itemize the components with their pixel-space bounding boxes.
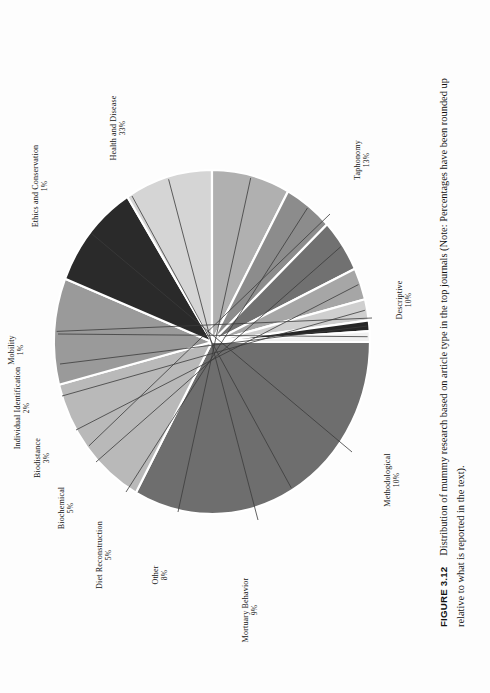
- pie-slice-label: Taphonomy13%: [353, 140, 372, 180]
- pie-slice-label-value: 2%: [22, 367, 31, 450]
- pie-slice-label-value: 10%: [404, 281, 413, 320]
- pie-slice-label-value: 3%: [42, 438, 51, 478]
- figure-caption-block: FIGURE 3.12Distribution of mummy researc…: [418, 0, 488, 693]
- pie-slice-label-name: Descriptive: [395, 281, 404, 320]
- pie-slice-label-value: 5%: [66, 487, 75, 530]
- pie-slice-label: Ethics and Conservation1%: [31, 145, 50, 228]
- pie-slice-label-name: Taphonomy: [353, 140, 362, 180]
- pie-slice-label-name: Diet Reconstruction: [95, 521, 104, 589]
- pie-slice-label: Biodistance3%: [33, 438, 52, 478]
- pie-slice-label-value: 9%: [250, 578, 259, 643]
- pie-slice-label: Descriptive10%: [395, 281, 414, 320]
- pie-slice-label-value: 1%: [40, 145, 49, 228]
- pie-slice-label-name: Ethics and Conservation: [31, 145, 40, 228]
- pie-slice-label: Diet Reconstruction5%: [95, 521, 114, 589]
- pie-slice-label: Individual Identification2%: [13, 367, 32, 450]
- pie-slice-label-name: Mortuary Behavior: [241, 578, 250, 643]
- pie-slice-label-name: Individual Identification: [13, 367, 22, 450]
- pie-slice-label-value: 8%: [160, 565, 169, 584]
- pie-slice-label-value: 1%: [16, 335, 25, 365]
- pie-slice-label-name: Mobility: [7, 335, 16, 365]
- pie-slice-label: Mortuary Behavior9%: [241, 578, 260, 643]
- figure-page: Health and Disease33%Taphonomy13%Descrip…: [0, 0, 490, 693]
- pie-slice-label-name: Biodistance: [33, 438, 42, 478]
- pie-slice-label-value: 33%: [118, 95, 127, 160]
- pie-slice-label: Biochemical5%: [57, 487, 76, 530]
- pie-slice-label: Methodological10%: [383, 453, 402, 506]
- pie-slice-label-name: Biochemical: [57, 487, 66, 530]
- pie-chart-figure: Health and Disease33%Taphonomy13%Descrip…: [0, 0, 420, 693]
- pie-slice-label-name: Health and Disease: [109, 95, 118, 160]
- pie-slice-label: Health and Disease33%: [109, 95, 128, 160]
- pie-slice-label-value: 13%: [362, 140, 371, 180]
- pie-slice-label-value: 10%: [392, 453, 401, 506]
- figure-number-label: FIGURE 3.12: [438, 566, 449, 626]
- pie-chart-svg: [0, 0, 420, 693]
- pie-slice-label-name: Methodological: [383, 453, 392, 506]
- figure-caption-text: Distribution of mummy research based on …: [438, 78, 466, 627]
- pie-slice-label: Other8%: [151, 565, 170, 584]
- pie-slice-label: Mobility1%: [7, 335, 26, 365]
- pie-slice-label-value: 5%: [104, 521, 113, 589]
- pie-slice-label-name: Other: [151, 565, 160, 584]
